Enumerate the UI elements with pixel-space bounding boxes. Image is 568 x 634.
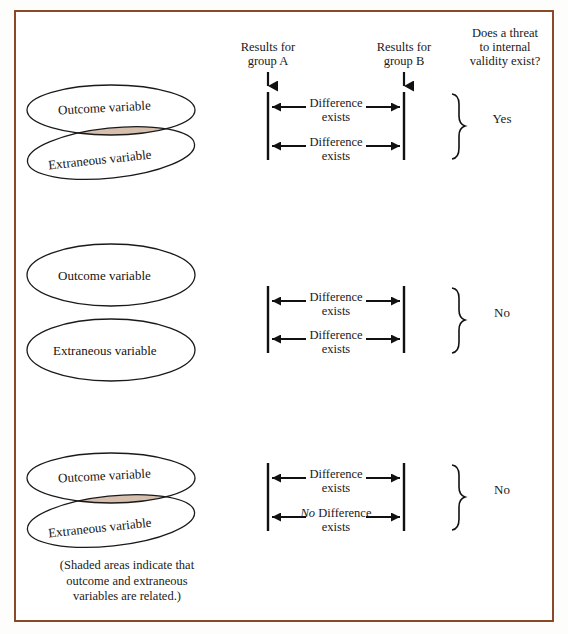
row-2-outcome-label: Outcome variable (58, 268, 151, 284)
row-3-comparison-2-text: Difference exists (315, 506, 371, 534)
row-3-answer: No (480, 483, 524, 498)
header-results-group-b: Results for group B (364, 40, 444, 68)
figure-caption: (Shaded areas indicate that outcome and … (22, 558, 232, 605)
row-1-comparison-1: Difference exists (296, 96, 376, 124)
figure-container: Results for group A Results for group B … (0, 0, 568, 634)
row-3-comparison-1: Difference exists (296, 467, 376, 495)
row-2-comparison-1: Difference exists (296, 290, 376, 318)
row-2-extraneous-label: Extraneous variable (53, 343, 157, 359)
row-2-answer: No (480, 306, 524, 321)
row-1-comparison-2: Difference exists (296, 135, 376, 163)
row-2-comparison-2: Difference exists (296, 328, 376, 356)
row-3-comparison-2: No Difference exists (288, 506, 384, 534)
row-3-comparison-2-prefix: No (301, 506, 316, 520)
row-1-answer: Yes (480, 112, 524, 127)
header-threat-question: Does a threat to internal validity exist… (455, 26, 555, 68)
header-results-group-a: Results for group A (228, 40, 308, 68)
